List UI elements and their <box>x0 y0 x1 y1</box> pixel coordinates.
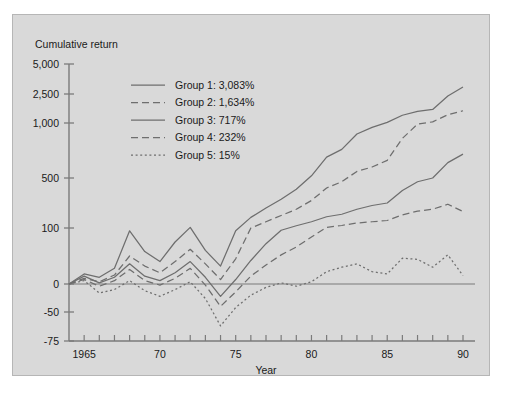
y-axis-tick-label: -50 <box>44 306 59 318</box>
series-line-group-2 <box>69 111 463 284</box>
x-axis-tick-label: 85 <box>381 348 393 360</box>
y-axis-tick-label: -75 <box>44 335 59 347</box>
series-line-group-4 <box>69 204 463 306</box>
legend-label-4: Group 4: 232% <box>175 131 246 143</box>
x-axis-tick-label: 75 <box>230 348 242 360</box>
y-axis-title: Cumulative return <box>35 38 118 50</box>
legend-label-2: Group 2: 1,634% <box>175 96 254 108</box>
y-axis-tick-label: 100 <box>41 222 59 234</box>
x-axis-title: Year <box>255 364 277 375</box>
legend-label-1: Group 1: 3,083% <box>175 79 254 91</box>
line-chart: 5,0002,5001,0005001000-50-75196570758085… <box>13 15 489 375</box>
y-axis-tick-label: 1,000 <box>33 117 59 129</box>
figure-panel: 5,0002,5001,0005001000-50-75196570758085… <box>12 14 490 376</box>
x-axis-tick-label: 1965 <box>72 348 96 360</box>
y-axis-tick-label: 500 <box>41 172 59 184</box>
series-line-group-3 <box>69 154 463 296</box>
series-line-group-1 <box>69 87 463 284</box>
y-axis-tick-label: 5,000 <box>33 58 59 70</box>
y-axis-tick-label: 0 <box>53 278 59 290</box>
x-axis-tick-label: 80 <box>306 348 318 360</box>
x-axis-tick-label: 90 <box>457 348 469 360</box>
legend-label-5: Group 5: 15% <box>175 149 240 161</box>
x-axis-tick-label: 70 <box>154 348 166 360</box>
legend-label-3: Group 3: 717% <box>175 114 246 126</box>
y-axis-tick-label: 2,500 <box>33 88 59 100</box>
